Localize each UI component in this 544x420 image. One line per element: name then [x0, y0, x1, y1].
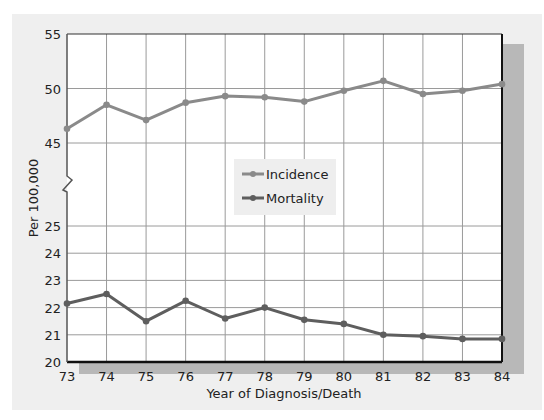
x-tick-label: 79	[296, 369, 313, 384]
y-tick-label: 50	[44, 82, 61, 97]
x-tick-label: 83	[454, 369, 471, 384]
x-tick-label: 73	[59, 369, 76, 384]
data-point	[103, 291, 110, 298]
data-point	[499, 336, 506, 343]
legend: Incidence Mortality	[234, 159, 336, 215]
data-point	[459, 336, 466, 343]
y-tick-label: 45	[44, 136, 61, 151]
x-tick-label: 75	[138, 369, 155, 384]
data-point	[341, 87, 348, 94]
x-tick-label: 80	[336, 369, 353, 384]
data-point	[301, 98, 308, 105]
data-point	[499, 81, 506, 88]
y-tick-label: 23	[44, 273, 61, 288]
data-point	[459, 87, 466, 94]
x-tick-label: 82	[415, 369, 432, 384]
data-point	[64, 126, 71, 133]
legend-label-mortality: Mortality	[266, 191, 324, 206]
data-point	[420, 333, 427, 340]
legend-label-incidence: Incidence	[266, 167, 328, 182]
x-tick-label: 77	[217, 369, 234, 384]
y-tick-label: 22	[44, 301, 61, 316]
y-tick-label: 25	[44, 219, 61, 234]
data-point	[261, 94, 268, 101]
data-point	[341, 321, 348, 328]
line-chart: 455055202122232425 737475767778798081828…	[0, 0, 544, 420]
data-point	[380, 332, 387, 339]
data-point	[222, 93, 229, 100]
legend-marker-incidence	[250, 171, 256, 177]
data-point	[103, 102, 110, 109]
x-tick-label: 84	[494, 369, 511, 384]
y-tick-label: 20	[44, 355, 61, 370]
chart-figure: 455055202122232425 737475767778798081828…	[0, 0, 544, 420]
y-axis-title: Per 100,000	[26, 159, 41, 238]
x-tick-label: 81	[375, 369, 392, 384]
y-tick-label: 24	[44, 246, 61, 261]
data-point	[143, 117, 150, 124]
data-point	[182, 99, 189, 106]
data-point	[143, 318, 150, 325]
x-tick-label: 78	[256, 369, 273, 384]
y-tick-label: 21	[44, 328, 61, 343]
data-point	[420, 91, 427, 98]
legend-marker-mortality	[250, 195, 256, 201]
data-point	[380, 78, 387, 85]
y-tick-label: 55	[44, 27, 61, 42]
x-tick-label: 76	[177, 369, 194, 384]
x-axis-title: Year of Diagnosis/Death	[205, 386, 361, 401]
data-point	[261, 304, 268, 311]
data-point	[301, 317, 308, 324]
data-point	[222, 315, 229, 322]
x-tick-label: 74	[98, 369, 115, 384]
data-point	[182, 298, 189, 305]
data-point	[64, 300, 71, 307]
